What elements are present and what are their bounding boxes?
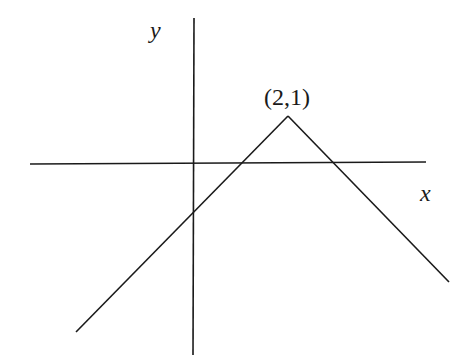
x-axis-label: x (419, 180, 431, 206)
y-axis (193, 18, 194, 355)
y-axis-label: y (148, 17, 161, 43)
x-axis (30, 162, 426, 164)
vertex-label: (2,1) (264, 84, 310, 110)
left-branch-line (76, 116, 288, 332)
function-graph: y x (2,1) (0, 0, 463, 358)
